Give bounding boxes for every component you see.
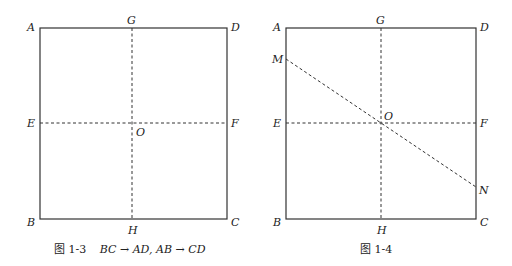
label-o: O xyxy=(136,126,145,139)
label-a: A xyxy=(26,21,35,34)
label-h: H xyxy=(376,224,387,237)
label-e: E xyxy=(26,117,35,130)
figure-1-3: A G D E F O B H C 图 1-3 BC → AD, AB → CD xyxy=(26,14,240,256)
label-h: H xyxy=(127,224,138,237)
label-o: O xyxy=(384,110,393,123)
label-f: F xyxy=(479,117,488,130)
label-c: C xyxy=(231,216,240,229)
figure-1-4: A G D M E F O N B H C 图 1-4 xyxy=(271,14,489,256)
label-e: E xyxy=(272,117,281,130)
label-g: G xyxy=(127,14,136,27)
label-m: M xyxy=(271,53,284,66)
label-f: F xyxy=(230,117,239,130)
caption-1-4: 图 1-4 xyxy=(360,243,392,256)
label-d: D xyxy=(479,21,489,34)
label-b: B xyxy=(272,216,281,229)
label-n: N xyxy=(478,184,489,197)
label-b: B xyxy=(26,216,35,229)
label-c: C xyxy=(480,216,489,229)
label-a: A xyxy=(272,21,281,34)
label-g: G xyxy=(376,14,385,27)
diagram-canvas: A G D E F O B H C 图 1-3 BC → AD, AB → CD… xyxy=(0,0,512,266)
caption-1-3: 图 1-3 BC → AD, AB → CD xyxy=(54,243,206,256)
label-d: D xyxy=(230,21,240,34)
